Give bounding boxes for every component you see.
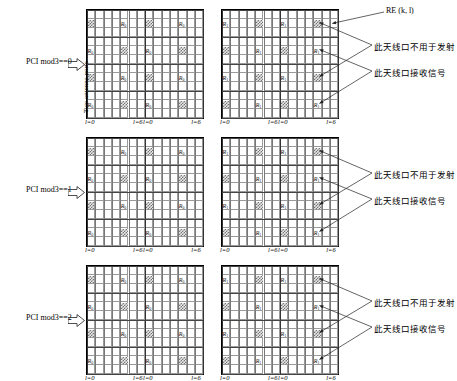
re-cell <box>222 55 230 64</box>
re-cell <box>222 293 230 302</box>
re-cell <box>264 365 272 374</box>
re-hatched-unused <box>146 74 153 81</box>
re-cell <box>280 28 288 37</box>
re-cell <box>255 64 263 73</box>
re-cell <box>137 311 145 320</box>
re-cell <box>95 329 103 338</box>
re-cell <box>178 293 186 302</box>
re-cell <box>120 28 128 37</box>
re-cell <box>162 219 170 228</box>
re-cell <box>297 210 305 219</box>
re-cell <box>305 109 313 118</box>
re-cell <box>145 109 153 118</box>
re-cell <box>170 266 178 275</box>
re-cell <box>288 210 296 219</box>
re-cell <box>297 284 305 293</box>
re-cell <box>230 55 238 64</box>
re-cell <box>264 174 272 183</box>
re-cell <box>230 329 238 338</box>
re-reference-signal: R1 <box>222 19 231 28</box>
tick-l6b-panel-2-port-0: l=6 <box>191 374 200 381</box>
re-hatched-unused <box>256 20 263 27</box>
re-cell <box>153 183 161 192</box>
re-cell <box>280 91 288 100</box>
re-cell <box>162 266 170 275</box>
tick-l0-panel-1-port-1: l=0 <box>220 246 229 253</box>
re-cell <box>187 174 195 183</box>
resource-grid-panel-1-port-0: R0R0R0R0R0R0R0R0 <box>86 137 204 247</box>
re-cell <box>153 311 161 320</box>
grid-hline <box>87 219 203 220</box>
re-cell <box>112 46 120 55</box>
re-cell <box>222 183 230 192</box>
re-cell <box>305 174 313 183</box>
re-hatched-unused <box>281 229 288 236</box>
re-cell <box>264 329 272 338</box>
re-cell <box>264 183 272 192</box>
re-cell <box>322 100 330 109</box>
re-cell <box>170 28 178 37</box>
re-cell <box>129 55 137 64</box>
re-cell <box>195 347 203 356</box>
re-cell <box>264 19 272 28</box>
re-cell <box>153 302 161 311</box>
re-cell <box>153 192 161 201</box>
grid-hline <box>87 192 203 193</box>
re-cell <box>264 73 272 82</box>
re-cell <box>137 10 145 19</box>
re-cell <box>129 100 137 109</box>
re-cell <box>104 347 112 356</box>
re-cell <box>239 329 247 338</box>
re-cell <box>178 284 186 293</box>
re-reference-signal: R0 <box>87 46 96 55</box>
re-cell <box>322 356 330 365</box>
re-cell <box>239 138 247 147</box>
re-cell <box>280 311 288 320</box>
re-cell <box>87 210 95 219</box>
re-cell <box>145 210 153 219</box>
re-cell <box>137 109 145 118</box>
re-hatched-unused <box>88 20 95 27</box>
re-cell <box>153 329 161 338</box>
annotation-receive-2: 此天线口接收信号 <box>374 322 446 334</box>
re-cell <box>272 165 280 174</box>
re-cell <box>129 347 137 356</box>
re-cell <box>129 266 137 275</box>
pci-label-0: PCI mod3==0 <box>26 57 72 66</box>
resource-grid-panel-2-port-1: R1R1R1R1R1R1R1R1 <box>221 265 339 375</box>
re-cell <box>280 10 288 19</box>
re-cell <box>288 275 296 284</box>
re-cell <box>313 156 321 165</box>
re-cell <box>195 210 203 219</box>
re-cell <box>95 19 103 28</box>
re-cell <box>129 109 137 118</box>
re-cell <box>255 10 263 19</box>
re-cell <box>162 356 170 365</box>
re-cell <box>178 109 186 118</box>
resource-grid-panel-0-port-0: R0R0R0R0R0R0R0R0 <box>86 9 204 119</box>
re-cell <box>313 210 321 219</box>
re-hatched-unused <box>179 303 186 310</box>
re-cell <box>112 293 120 302</box>
re-cell <box>230 293 238 302</box>
re-cell <box>112 10 120 19</box>
re-cell <box>153 37 161 46</box>
re-cell <box>87 138 95 147</box>
re-cell <box>264 82 272 91</box>
grid-hline <box>222 64 338 65</box>
re-cell <box>153 91 161 100</box>
re-cell <box>87 10 95 19</box>
grid-hline <box>222 165 338 166</box>
re-cell <box>162 138 170 147</box>
re-cell <box>305 147 313 156</box>
re-cell <box>322 302 330 311</box>
re-cell <box>247 183 255 192</box>
re-cell <box>313 183 321 192</box>
re-cell <box>170 311 178 320</box>
re-cell <box>230 347 238 356</box>
re-cell <box>137 210 145 219</box>
re-cell <box>195 46 203 55</box>
re-cell <box>313 237 321 246</box>
re-hatched-unused <box>146 148 153 155</box>
re-cell <box>272 311 280 320</box>
